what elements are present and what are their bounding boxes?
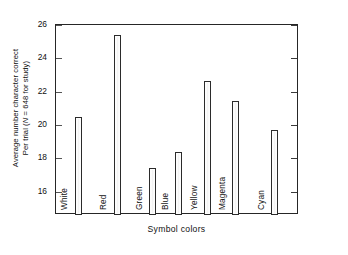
y-tick-right-18: [291, 158, 297, 159]
bar-red: [114, 35, 121, 215]
y-tick-18: [56, 158, 62, 159]
bar-fill: [177, 154, 180, 213]
y-tick-label-18: 18: [25, 152, 47, 162]
bar-fill: [234, 103, 237, 213]
x-label-green: Green: [135, 186, 144, 210]
y-tick-24: [56, 58, 62, 59]
bar-fill: [151, 170, 154, 214]
bar-blue: [175, 152, 182, 215]
bar-magenta: [232, 101, 239, 215]
x-label-blue: Blue: [161, 193, 170, 210]
y-tick-20: [56, 125, 62, 126]
y-tick-label-24: 24: [25, 52, 47, 62]
y-tick-right-20: [291, 125, 297, 126]
x-axis-title: Symbol colors: [55, 224, 298, 234]
y-tick-right-22: [291, 92, 297, 93]
bar-fill: [206, 83, 209, 213]
bar-green: [149, 168, 156, 216]
bar-fill: [77, 119, 80, 213]
bar-yellow: [204, 81, 211, 215]
y-axis-title-line-2: Per trial (N = 648 for study): [21, 60, 30, 154]
bar-cyan: [271, 130, 278, 215]
bar-fill: [116, 37, 119, 213]
y-tick-right-26: [291, 25, 297, 26]
x-label-white: White: [60, 188, 69, 210]
y-axis-title-line-1: Average number character correct: [11, 48, 20, 166]
plot-area: WhiteRedGreenBlueYellowMagentaCyan: [55, 24, 298, 214]
y-tick-label-20: 20: [25, 119, 47, 129]
bar-white: [75, 117, 82, 215]
x-label-red: Red: [99, 194, 108, 210]
y-tick-right-24: [291, 58, 297, 59]
x-label-magenta: Magenta: [218, 177, 227, 210]
y-tick-26: [56, 25, 62, 26]
x-label-cyan: Cyan: [257, 190, 266, 210]
y-tick-label-22: 22: [25, 86, 47, 96]
y-tick-right-16: [291, 192, 297, 193]
bar-chart-figure: Average number character correct Per tri…: [0, 0, 348, 255]
y-tick-22: [56, 92, 62, 93]
y-tick-label-16: 16: [25, 186, 47, 196]
y-axis-title: Average number character correct Per tri…: [0, 0, 44, 215]
bar-fill: [273, 132, 276, 213]
x-label-yellow: Yellow: [190, 185, 199, 210]
y-tick-label-26: 26: [25, 19, 47, 29]
